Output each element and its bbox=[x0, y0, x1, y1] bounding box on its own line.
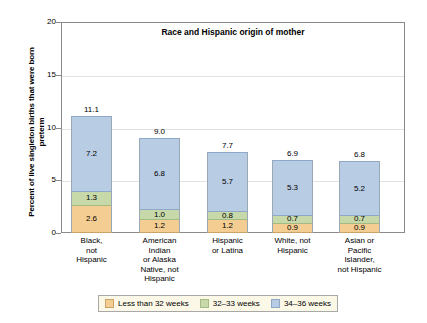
bar-segment[interactable]: 1.2 bbox=[207, 220, 248, 233]
x-axis-label: Black,notHispanic bbox=[59, 236, 124, 265]
x-axis-label-line: not bbox=[59, 246, 124, 256]
bar-segment[interactable]: 7.2 bbox=[71, 116, 112, 192]
bar-segment-value: 6.8 bbox=[140, 170, 179, 178]
chart-container: Percent of live singleton births that we… bbox=[0, 0, 427, 323]
bar-stack[interactable]: 1.20.85.7 bbox=[207, 152, 248, 233]
bar-segment[interactable]: 5.2 bbox=[339, 161, 380, 216]
x-axis-label-line: or Alaska bbox=[127, 255, 192, 265]
y-tick-mark bbox=[55, 233, 61, 234]
bar-segment-value: 0.8 bbox=[208, 212, 247, 220]
x-axis-label-line: Indian bbox=[127, 246, 192, 256]
x-axis-label-line: not Hispanic bbox=[327, 265, 392, 275]
x-axis-label-line: Native, not bbox=[127, 265, 192, 275]
y-tick-label: 5 bbox=[36, 176, 56, 184]
bar-group[interactable]: 0.90.75.26.8 bbox=[339, 22, 380, 233]
x-axis-label: Asian orPacificIslander,not Hispanic bbox=[327, 236, 392, 274]
bar-segment[interactable]: 0.9 bbox=[339, 224, 380, 233]
legend-swatch bbox=[271, 299, 280, 308]
bar-segment[interactable]: 5.7 bbox=[207, 152, 248, 212]
bar-segment[interactable]: 5.3 bbox=[272, 160, 313, 216]
bar-group[interactable]: 2.61.37.211.1 bbox=[71, 22, 112, 233]
y-tick-label: 10 bbox=[36, 124, 56, 132]
bar-segment-value: 1.3 bbox=[72, 194, 111, 202]
y-axis-title: Percent of live singleton births that we… bbox=[27, 32, 47, 232]
bar-total-value: 7.7 bbox=[207, 142, 248, 150]
legend-label: Less than 32 weeks bbox=[118, 299, 189, 308]
legend-label: 34–36 weeks bbox=[284, 299, 331, 308]
bar-segment-value: 0.9 bbox=[273, 224, 312, 232]
bar-segment[interactable]: 2.6 bbox=[71, 206, 112, 233]
x-axis-label-line: White, not bbox=[260, 236, 325, 246]
bar-segment-value: 7.2 bbox=[72, 150, 111, 158]
x-axis-label: Hispanicor Latina bbox=[195, 236, 260, 255]
x-axis-label-line: Hispanic bbox=[260, 246, 325, 256]
bar-segment[interactable]: 0.7 bbox=[339, 216, 380, 223]
bars-layer: 2.61.37.211.11.21.06.89.01.20.85.77.70.9… bbox=[61, 22, 405, 233]
bar-segment-value: 5.2 bbox=[340, 185, 379, 193]
chart-legend: Less than 32 weeks32–33 weeks34–36 weeks bbox=[98, 295, 338, 312]
x-axis-label-line: Islander, bbox=[327, 255, 392, 265]
bar-segment-value: 1.0 bbox=[140, 211, 179, 219]
bar-segment[interactable]: 0.7 bbox=[272, 216, 313, 223]
legend-item[interactable]: Less than 32 weeks bbox=[105, 299, 189, 308]
y-tick-label: 20 bbox=[36, 18, 56, 26]
bar-segment-value: 1.2 bbox=[140, 222, 179, 230]
bar-stack[interactable]: 1.21.06.8 bbox=[139, 138, 180, 233]
bar-segment-value: 5.3 bbox=[273, 184, 312, 192]
bar-group[interactable]: 0.90.75.36.9 bbox=[272, 22, 313, 233]
x-axis-label-line: Hispanic bbox=[127, 274, 192, 284]
x-axis-label-line: Black, bbox=[59, 236, 124, 246]
bar-stack[interactable]: 2.61.37.2 bbox=[71, 116, 112, 233]
bar-total-value: 9.0 bbox=[139, 128, 180, 136]
x-axis-label-line: Hispanic bbox=[59, 255, 124, 265]
legend-swatch bbox=[105, 299, 114, 308]
bar-total-value: 11.1 bbox=[71, 106, 112, 114]
legend-item[interactable]: 34–36 weeks bbox=[271, 299, 331, 308]
bar-stack[interactable]: 0.90.75.2 bbox=[339, 161, 380, 233]
x-axis-label-line: American bbox=[127, 236, 192, 246]
bar-total-value: 6.9 bbox=[272, 150, 313, 158]
bar-segment[interactable]: 1.3 bbox=[71, 192, 112, 206]
bar-total-value: 6.8 bbox=[339, 151, 380, 159]
x-axis-labels: Black,notHispanicAmericanIndianor Alaska… bbox=[61, 236, 405, 286]
bar-segment-value: 2.6 bbox=[72, 215, 111, 223]
bar-segment[interactable]: 1.2 bbox=[139, 220, 180, 233]
bar-segment[interactable]: 0.9 bbox=[272, 224, 313, 233]
bar-segment[interactable]: 6.8 bbox=[139, 138, 180, 210]
bar-segment-value: 0.7 bbox=[273, 215, 312, 223]
bar-segment-value: 1.2 bbox=[208, 222, 247, 230]
x-axis-label-line: Asian or bbox=[327, 236, 392, 246]
bar-group[interactable]: 1.21.06.89.0 bbox=[139, 22, 180, 233]
legend-label: 32–33 weeks bbox=[213, 299, 260, 308]
y-tick-label: 15 bbox=[36, 71, 56, 79]
bar-segment-value: 0.7 bbox=[340, 215, 379, 223]
legend-item[interactable]: 32–33 weeks bbox=[200, 299, 260, 308]
x-axis-label: White, notHispanic bbox=[260, 236, 325, 255]
bar-segment[interactable]: 0.8 bbox=[207, 212, 248, 220]
x-axis-label-line: or Latina bbox=[195, 246, 260, 256]
bar-segment-value: 0.9 bbox=[340, 224, 379, 232]
x-axis-label-line: Pacific bbox=[327, 246, 392, 256]
bar-group[interactable]: 1.20.85.77.7 bbox=[207, 22, 248, 233]
x-axis-label-line: Hispanic bbox=[195, 236, 260, 246]
bar-segment[interactable]: 1.0 bbox=[139, 210, 180, 221]
x-axis-label: AmericanIndianor AlaskaNative, notHispan… bbox=[127, 236, 192, 284]
y-tick-label: 0 bbox=[36, 229, 56, 237]
bar-segment-value: 5.7 bbox=[208, 178, 247, 186]
legend-swatch bbox=[200, 299, 209, 308]
bar-stack[interactable]: 0.90.75.3 bbox=[272, 160, 313, 233]
